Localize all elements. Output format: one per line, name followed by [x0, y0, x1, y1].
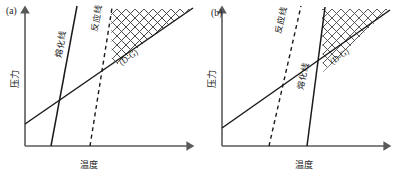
melting-line-b [307, 7, 325, 146]
panel-a: (a) 压力 温度 熔化线 反应线 (D-G) [0, 0, 196, 179]
x-axis-label-b: 温度 [295, 158, 313, 171]
phase-diagram-figure: (a) 压力 温度 熔化线 反应线 (D-G) [0, 0, 393, 179]
y-axis-label-b: 压力 [205, 59, 218, 99]
melting-line-a [51, 6, 77, 146]
x-axis-label-a: 温度 [80, 158, 98, 171]
panel-tag-a: (a) [6, 6, 17, 16]
panel-tag-b: (b) [211, 8, 222, 18]
y-axis-label-a: 压力 [8, 59, 21, 99]
panel-b: (b) 压力 温度 反应线 熔化线 (D-G) [197, 0, 393, 179]
panel-b-plot [197, 0, 393, 179]
